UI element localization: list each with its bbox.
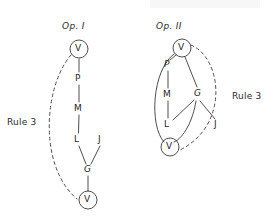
op-1-node-circles	[70, 40, 97, 209]
op-2-node-j: J	[214, 119, 217, 129]
figure-canvas: Op. I Rule 3 V P M L J G V Op. II Rule 3…	[0, 0, 274, 220]
op-2-node-l: L	[164, 119, 169, 129]
edge-vtop-vbottom-rule3	[49, 55, 77, 199]
op-1-title: Op. I	[62, 21, 85, 31]
graph-drawing	[0, 0, 274, 220]
op-2-node-p: P	[164, 59, 169, 69]
edge-g-l	[173, 100, 194, 120]
op-2-node-v-bottom: V	[166, 141, 172, 151]
op-1-node-v-top: V	[75, 43, 81, 53]
edge-l-g	[79, 146, 86, 164]
edge-vtop-p	[170, 55, 176, 60]
op-1-rule-label: Rule 3	[7, 117, 36, 127]
edge-j-g	[91, 146, 100, 164]
op-2-node-m: M	[163, 89, 171, 99]
op-1-node-v-bottom: V	[84, 194, 90, 204]
op-1-node-p: P	[75, 73, 80, 83]
op-1-node-m: M	[74, 103, 82, 113]
edge-vtop-g	[185, 57, 197, 87]
op-2-node-v-top: V	[178, 42, 184, 52]
op-2-node-g: G	[194, 88, 201, 98]
op-2-rule-label: Rule 3	[232, 91, 261, 101]
op-1-node-g: G	[84, 164, 91, 174]
op-1-node-j: J	[98, 134, 101, 144]
op-2-title: Op. II	[156, 21, 182, 31]
edge-m-l	[79, 115, 80, 133]
edge-g-j	[200, 101, 215, 119]
op-1-node-l: L	[74, 134, 79, 144]
edge-g-vbottom	[174, 101, 196, 142]
